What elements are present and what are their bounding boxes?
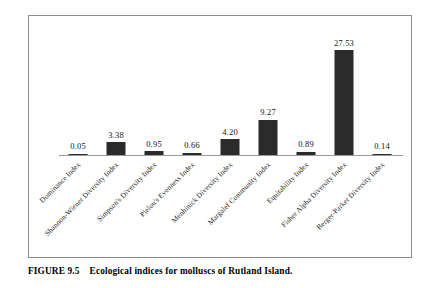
cat-slot: Berger-Parker Diversity Index [363, 158, 401, 254]
x-axis-category-labels: Dominance Index Shannon-Wiener Diversity… [59, 158, 403, 254]
bar-value-label: 0.95 [146, 139, 162, 149]
figure-page: 0.05 3.38 0.95 0.66 4.20 9.27 [0, 0, 432, 288]
bar-value-label: 0.89 [298, 139, 314, 149]
figure-caption-text: Ecological indices for molluscs of Rutla… [90, 266, 293, 276]
figure-caption: FIGURE 9.5Ecological indices for mollusc… [28, 266, 428, 276]
cat-slot: Margalef Community Index [249, 158, 287, 254]
bar-slot: 0.05 [59, 25, 97, 155]
bar-value-label: 0.05 [70, 141, 86, 151]
bar-value-label: 0.14 [374, 141, 390, 151]
bar-value-label: 27.53 [334, 38, 354, 48]
figure-frame: 0.05 3.38 0.95 0.66 4.20 9.27 [28, 15, 412, 258]
figure-caption-label: FIGURE 9.5 [28, 266, 80, 276]
bar-value-label: 0.66 [184, 140, 200, 150]
